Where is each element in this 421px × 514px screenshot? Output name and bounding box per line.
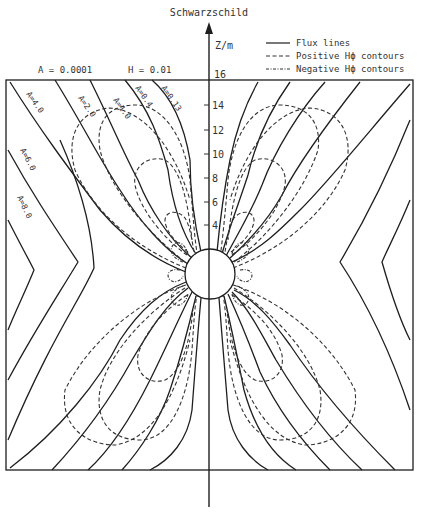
tick-12: 12 bbox=[212, 125, 224, 136]
label-a-013: A=0.13 bbox=[159, 84, 183, 113]
legend: Flux lines Positive Hϕ contours Negative… bbox=[266, 38, 404, 74]
diagram-title: Schwarzschild bbox=[170, 7, 248, 18]
tick-10: 10 bbox=[212, 149, 224, 160]
tick-8: 8 bbox=[212, 173, 218, 184]
tick-14: 14 bbox=[212, 100, 224, 111]
schwarzschild-diagram: Schwarzschild Z/m 16 14 12 10 8 6 4 A = … bbox=[0, 0, 421, 514]
black-hole-circle bbox=[185, 249, 235, 299]
curve-labels: A=4.0 A=2.0 A=1.0 A=0.4 A=0.13 A=6.0 A=8… bbox=[15, 84, 183, 220]
label-a-4: A=4.0 bbox=[24, 90, 45, 115]
param-a: A = 0.0001 bbox=[38, 65, 92, 75]
label-a-8: A=8.0 bbox=[15, 194, 33, 220]
legend-negative: Negative Hϕ contours bbox=[296, 64, 404, 74]
label-a-6: A=6.0 bbox=[18, 147, 37, 173]
label-a-1: A=1.0 bbox=[111, 96, 132, 121]
tick-6: 6 bbox=[212, 197, 218, 208]
param-h: H = 0.01 bbox=[128, 65, 171, 75]
tick-4: 4 bbox=[212, 220, 218, 231]
legend-positive: Positive Hϕ contours bbox=[296, 51, 404, 61]
axis-label: Z/m bbox=[215, 40, 233, 51]
tick-16: 16 bbox=[214, 69, 226, 80]
axis-arrow-icon bbox=[205, 22, 213, 34]
legend-flux: Flux lines bbox=[296, 38, 350, 48]
